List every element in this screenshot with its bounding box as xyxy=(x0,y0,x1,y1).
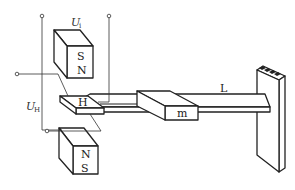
beam-length-label: L xyxy=(220,82,228,95)
voltage-label-uh: U H xyxy=(26,100,40,114)
top-magnet: S N xyxy=(54,30,93,78)
terminal-uh-bottom xyxy=(45,129,49,133)
voltage-label-ui: U i xyxy=(71,16,82,30)
mass-label: m xyxy=(177,107,188,120)
hall-element-label: H xyxy=(78,96,88,109)
bottom-magnet-pole-s: S xyxy=(81,162,89,175)
terminal-uh-top xyxy=(15,72,19,76)
svg-text:i: i xyxy=(79,22,82,30)
terminal-ui-right xyxy=(107,14,111,18)
bottom-magnet-pole-n: N xyxy=(81,148,91,161)
hall-sensor-diagram: m H L S N N S xyxy=(0,0,295,190)
terminal-ui-left xyxy=(40,14,44,18)
top-magnet-pole-n: N xyxy=(77,64,87,77)
top-magnet-pole-s: S xyxy=(77,50,85,63)
wall-support xyxy=(257,66,285,172)
svg-text:H: H xyxy=(34,106,40,114)
bottom-magnet: N S xyxy=(59,128,98,175)
